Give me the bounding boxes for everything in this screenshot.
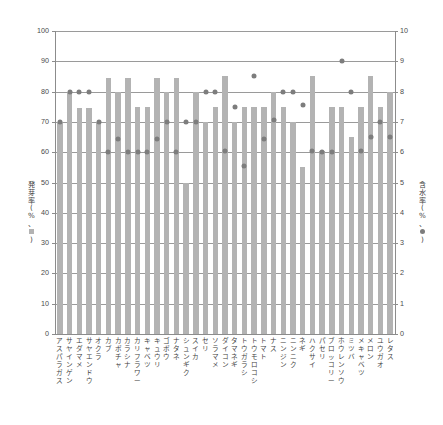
dot-marker bbox=[116, 136, 121, 141]
dot-marker bbox=[193, 119, 198, 124]
dot-marker bbox=[252, 74, 257, 79]
dot-marker bbox=[77, 89, 82, 94]
left-axis-tick-label: 100 bbox=[0, 27, 49, 34]
left-axis-tickmark bbox=[52, 273, 55, 274]
right-axis-tickmark bbox=[395, 304, 398, 305]
plot-area bbox=[55, 31, 395, 334]
dot-marker bbox=[359, 148, 364, 153]
right-axis-tick-label: 10 bbox=[400, 27, 408, 34]
right-axis-tickmark bbox=[395, 334, 398, 335]
left-axis-tick-label: 20 bbox=[0, 269, 49, 276]
dot-marker bbox=[174, 150, 179, 155]
dot-marker bbox=[135, 150, 140, 155]
right-axis-tick-label: 7 bbox=[400, 118, 404, 125]
right-axis-tick-label: 8 bbox=[400, 88, 404, 95]
right-axis-tick-label: 3 bbox=[400, 239, 404, 246]
left-axis-title: 発芽率(%、) bbox=[27, 181, 36, 243]
dot-marker bbox=[184, 119, 189, 124]
dot-marker bbox=[378, 119, 383, 124]
left-axis-tickmark bbox=[52, 31, 55, 32]
dot-marker bbox=[349, 89, 354, 94]
dot-marker bbox=[339, 59, 344, 64]
right-axis-tickmark bbox=[395, 31, 398, 32]
dot-marker bbox=[281, 89, 286, 94]
dot-marker bbox=[310, 148, 315, 153]
left-axis-tick-label: 50 bbox=[0, 179, 49, 186]
left-axis-tick-label: 40 bbox=[0, 209, 49, 216]
left-axis-tickmark bbox=[52, 213, 55, 214]
right-axis-tick-label: 9 bbox=[400, 57, 404, 64]
dot-marker bbox=[261, 136, 266, 141]
right-axis-tick-label: 5 bbox=[400, 179, 404, 186]
right-axis-tickmark bbox=[395, 213, 398, 214]
left-axis-line bbox=[55, 31, 56, 334]
dot-marker bbox=[223, 148, 228, 153]
dot-marker bbox=[271, 118, 276, 123]
left-axis-tick-label: 0 bbox=[0, 330, 49, 337]
right-axis-tick-label: 2 bbox=[400, 269, 404, 276]
dot-marker bbox=[96, 119, 101, 124]
dot-marker bbox=[106, 150, 111, 155]
left-axis-tick-label: 60 bbox=[0, 148, 49, 155]
left-axis-tickmark bbox=[52, 92, 55, 93]
left-axis-tick-label: 30 bbox=[0, 239, 49, 246]
left-axis-tickmark bbox=[52, 152, 55, 153]
right-axis-tickmark bbox=[395, 273, 398, 274]
right-axis-tickmark bbox=[395, 152, 398, 153]
dot-marker bbox=[320, 150, 325, 155]
left-axis-tickmark bbox=[52, 122, 55, 123]
dot-marker bbox=[87, 89, 92, 94]
left-axis-tickmark bbox=[52, 61, 55, 62]
right-axis-title: 含水率(%、) bbox=[418, 181, 427, 243]
dot-marker bbox=[164, 119, 169, 124]
dot-marker bbox=[67, 89, 72, 94]
right-axis-tickmark bbox=[395, 122, 398, 123]
left-axis-tickmark bbox=[52, 183, 55, 184]
dot-marker bbox=[242, 163, 247, 168]
left-axis-tick-label: 80 bbox=[0, 88, 49, 95]
dot-marker bbox=[145, 150, 150, 155]
germination-moisture-chart: 0102030405060708090100 012345678910 アスパラ… bbox=[0, 0, 443, 425]
dot-marker bbox=[388, 135, 393, 140]
left-axis-tick-label: 70 bbox=[0, 118, 49, 125]
right-axis-tick-label: 1 bbox=[400, 300, 404, 307]
dot-marker bbox=[57, 119, 62, 124]
category-label: レタス bbox=[385, 337, 396, 361]
left-axis-tickmark bbox=[52, 243, 55, 244]
dot-marker bbox=[203, 89, 208, 94]
right-axis-tickmark bbox=[395, 61, 398, 62]
dot-marker bbox=[368, 135, 373, 140]
dot-marker bbox=[291, 89, 296, 94]
dot-marker bbox=[155, 136, 160, 141]
dot-marker bbox=[329, 150, 334, 155]
bar-legend-swatch bbox=[29, 229, 34, 234]
category-axis-labels: アスパラガスサヤインゲンエダマメサヤエンドウオクラカブカボチャカラシナカリフラワ… bbox=[55, 337, 395, 417]
dot-series-layer bbox=[55, 31, 395, 334]
dot-marker bbox=[300, 103, 305, 108]
left-axis-tickmark bbox=[52, 334, 55, 335]
right-axis-tick-label: 4 bbox=[400, 209, 404, 216]
dot-marker bbox=[125, 150, 130, 155]
right-axis-tickmark bbox=[395, 92, 398, 93]
right-axis-tickmark bbox=[395, 243, 398, 244]
right-axis-tick-label: 0 bbox=[400, 330, 404, 337]
left-axis-tick-label: 90 bbox=[0, 57, 49, 64]
left-axis-tick-label: 10 bbox=[0, 300, 49, 307]
dot-marker bbox=[213, 89, 218, 94]
right-axis-tick-label: 6 bbox=[400, 148, 404, 155]
category-axis-line bbox=[55, 334, 396, 335]
dot-marker bbox=[232, 104, 237, 109]
right-axis-tickmark bbox=[395, 183, 398, 184]
dot-legend-swatch bbox=[420, 229, 425, 234]
left-axis-tickmark bbox=[52, 304, 55, 305]
